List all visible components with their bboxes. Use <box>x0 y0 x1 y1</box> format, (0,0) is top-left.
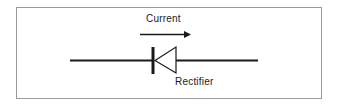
diode-icon <box>153 47 176 74</box>
current-label: Current <box>146 13 181 24</box>
arrow-right-icon <box>140 31 191 38</box>
rectifier-label: Rectifier <box>175 76 213 87</box>
